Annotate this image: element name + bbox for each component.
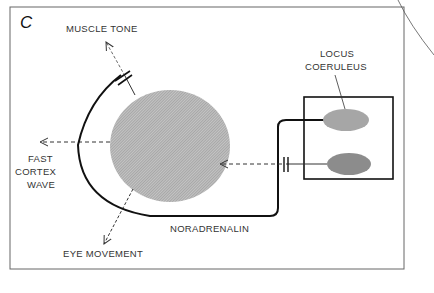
label-locus-1: LOCUS — [320, 48, 354, 60]
locus-label-pointer — [335, 75, 345, 109]
hatched-brain-region — [110, 90, 230, 202]
label-cortex: CORTEX — [15, 166, 56, 178]
label-fast: FAST — [28, 153, 53, 165]
label-noradrenalin: NORADRENALIN — [170, 223, 249, 235]
label-wave: WAVE — [27, 179, 55, 191]
locus-ellipse-bottom — [327, 153, 371, 175]
stray-curve — [398, 0, 434, 55]
eye-movement-arrow — [104, 189, 133, 244]
label-muscle-tone: MUSCLE TONE — [66, 23, 138, 35]
muscle-tone-arrow — [106, 42, 125, 76]
label-eye-movement: EYE MOVEMENT — [63, 248, 143, 260]
synapse-bar-top-1 — [115, 71, 130, 81]
label-locus-2: COERULEUS — [305, 61, 367, 73]
panel-label: C — [20, 13, 32, 33]
locus-ellipse-top — [323, 109, 369, 131]
